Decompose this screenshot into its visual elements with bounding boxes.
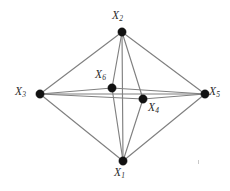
node-label-x4: X4	[148, 102, 159, 114]
label-variable: X	[148, 101, 155, 113]
label-variable: X	[114, 166, 121, 178]
node-x6[interactable]	[108, 84, 116, 92]
node-label-x3: X3	[15, 86, 26, 98]
node-x5[interactable]	[201, 90, 209, 98]
label-subscript: 6	[102, 73, 106, 82]
edge-x2-x6	[112, 32, 122, 88]
edge-x4-x5	[143, 94, 205, 99]
edge-x4-x1	[123, 99, 143, 161]
edge-x3-x4	[40, 94, 143, 99]
node-x2[interactable]	[118, 28, 126, 36]
node-x4[interactable]	[139, 95, 147, 103]
edge-group	[40, 32, 205, 161]
graph-canvas	[0, 0, 230, 191]
label-subscript: 2	[119, 14, 123, 23]
label-subscript: 1	[121, 171, 125, 180]
edge-x3-x1	[40, 94, 123, 161]
node-label-x5: X5	[209, 86, 220, 98]
node-x3[interactable]	[36, 90, 44, 98]
label-variable: X	[112, 9, 119, 21]
edge-x3-x6	[40, 88, 112, 94]
label-subscript: 3	[22, 90, 26, 99]
speck	[198, 160, 199, 164]
label-variable: X	[15, 85, 22, 97]
node-x1[interactable]	[119, 157, 127, 165]
node-label-x6: X6	[95, 69, 106, 81]
edge-x6-x1	[112, 88, 123, 161]
label-subscript: 5	[216, 90, 220, 99]
graph-figure: X1X2X3X4X5X6	[0, 0, 230, 191]
node-label-x1: X1	[114, 167, 125, 179]
label-variable: X	[209, 85, 216, 97]
edge-x6-x5	[112, 88, 205, 94]
edge-x2-x1	[122, 32, 123, 161]
edge-x2-x5	[122, 32, 205, 94]
label-variable: X	[95, 68, 102, 80]
edge-x1-x5	[123, 94, 205, 161]
node-label-x2: X2	[112, 10, 123, 22]
label-subscript: 4	[155, 106, 159, 115]
